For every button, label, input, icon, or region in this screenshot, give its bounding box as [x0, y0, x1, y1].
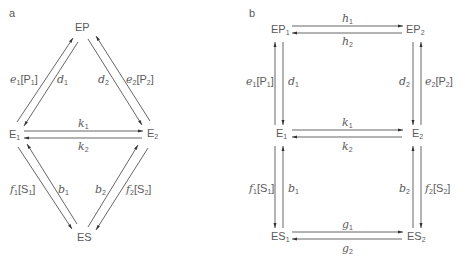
rate-b-b1: b1: [288, 183, 299, 197]
rate-b-f2: f2[S2]: [425, 183, 450, 197]
rate-b-f1: f1[S1]: [249, 183, 274, 197]
rate-a-e1: e1[P1]: [10, 74, 38, 88]
rate-b-b2: b2: [399, 183, 410, 197]
node-b-EP1: EP1: [271, 24, 290, 38]
rate-a-k2: k2: [78, 141, 89, 155]
node-a-ES: ES: [77, 232, 92, 243]
panel-label-a: a: [9, 8, 15, 19]
node-b-EP2: EP2: [406, 24, 425, 38]
rate-b-k1: k1: [342, 117, 353, 131]
rate-a-b1: b1: [58, 184, 69, 198]
rate-b-h1: h1: [342, 13, 353, 27]
rate-a-f2: f2[S2]: [126, 184, 151, 198]
node-a-EP: EP: [75, 22, 90, 33]
panel-label-b: b: [249, 8, 255, 19]
node-b-ES2: ES2: [407, 231, 426, 245]
panel-a-arrows: [17, 36, 150, 230]
rate-b-e1: e1[P1]: [246, 76, 274, 90]
rate-b-g1: g1: [342, 219, 353, 233]
node-b-E2: E2: [412, 128, 423, 142]
rate-a-d2: d2: [98, 74, 109, 88]
rate-a-k1: k1: [78, 118, 89, 132]
node-b-E1: E1: [276, 128, 287, 142]
rate-a-b2: b2: [95, 184, 106, 198]
rate-b-e2: e2[P2]: [425, 76, 453, 90]
rate-a-f1: f1[S1]: [10, 184, 35, 198]
rate-a-d1: d1: [57, 74, 68, 88]
rate-b-d1: d1: [288, 76, 299, 90]
panel-b-arrows: [275, 26, 421, 239]
node-a-E1: E1: [9, 129, 20, 143]
node-b-ES1: ES1: [271, 231, 290, 245]
rate-a-e2: e2[P2]: [126, 74, 154, 88]
node-a-E2: E2: [147, 128, 158, 142]
diagram-canvas: [0, 0, 463, 260]
rate-b-d2: d2: [399, 76, 410, 90]
rate-b-h2: h2: [342, 36, 353, 50]
rate-b-g2: g2: [342, 243, 353, 257]
rate-b-k2: k2: [342, 141, 353, 155]
